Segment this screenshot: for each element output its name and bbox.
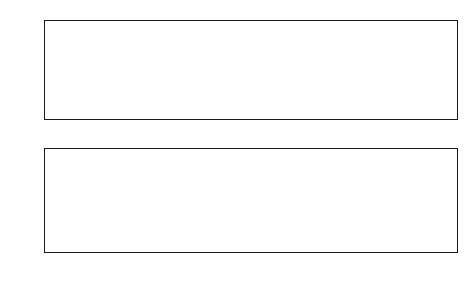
bottom-panel (0, 140, 473, 284)
waveform-plot (45, 21, 458, 120)
top-panel-plot-area (44, 20, 458, 120)
top-panel (0, 0, 473, 142)
indx-plot (45, 149, 458, 253)
bottom-panel-plot-area (44, 148, 458, 253)
figure-root (0, 0, 473, 284)
